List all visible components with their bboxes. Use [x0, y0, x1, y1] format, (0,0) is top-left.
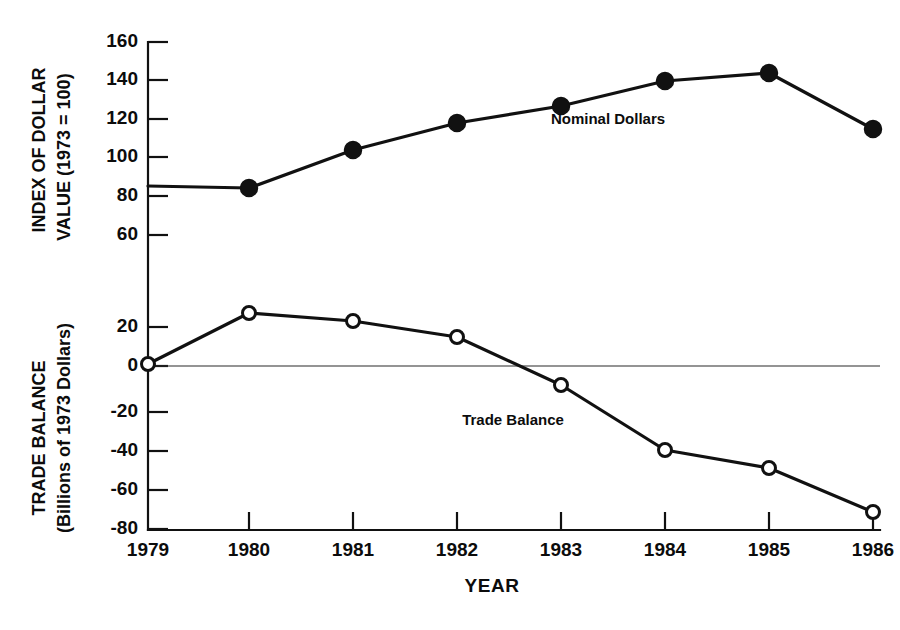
series-nominal-dollars — [148, 65, 882, 197]
top-y-axis-title-line1: INDEX OF DOLLAR — [29, 68, 49, 233]
trade-balance-point-1979 — [142, 358, 155, 371]
x-tick-label-1985: 1985 — [748, 539, 791, 560]
chart-figure: 160 140 120 100 80 60 20 0 -20 -40 -60 -… — [0, 0, 900, 630]
trade-balance-point-1981 — [347, 315, 360, 328]
nominal-dollars-point-1980 — [241, 180, 258, 197]
nominal-dollars-point-1985 — [761, 65, 778, 82]
x-tick-label-1981: 1981 — [332, 539, 375, 560]
nominal-dollars-line — [148, 73, 873, 188]
x-ticks: 1979 1980 1981 1982 1983 1984 1985 1986 — [127, 512, 894, 560]
bottom-y-tick-label-20: 20 — [117, 315, 138, 336]
x-tick-label-1979: 1979 — [127, 539, 169, 560]
trade-balance-point-1980 — [243, 307, 256, 320]
x-tick-label-1984: 1984 — [644, 539, 687, 560]
bottom-y-axis-title: TRADE BALANCE (Billions of 1973 Dollars) — [29, 323, 74, 533]
top-y-tick-label-60: 60 — [117, 223, 138, 244]
bottom-y-axis-title-line2: (Billions of 1973 Dollars) — [54, 323, 74, 533]
bottom-y-tick-label-neg20: -20 — [111, 400, 138, 421]
top-y-ticks: 160 140 120 100 80 60 — [106, 30, 168, 244]
bottom-y-axis-title-line1: TRADE BALANCE — [29, 361, 49, 516]
top-y-axis-title: INDEX OF DOLLAR VALUE (1973 = 100) — [29, 68, 74, 241]
nominal-dollars-point-1986 — [865, 121, 882, 138]
trade-balance-annotation: Trade Balance — [462, 411, 564, 428]
chart-canvas: 160 140 120 100 80 60 20 0 -20 -40 -60 -… — [0, 0, 900, 630]
nominal-dollars-point-1984 — [657, 73, 674, 90]
top-y-tick-label-160: 160 — [106, 30, 138, 51]
x-tick-label-1986: 1986 — [852, 539, 894, 560]
trade-balance-point-1983 — [555, 379, 568, 392]
top-y-tick-label-140: 140 — [106, 68, 138, 89]
bottom-y-tick-label-neg40: -40 — [111, 439, 138, 460]
x-axis-title: YEAR — [465, 575, 520, 596]
x-tick-label-1980: 1980 — [228, 539, 270, 560]
top-y-axis-title-line2: VALUE (1973 = 100) — [54, 73, 74, 240]
bottom-y-tick-label-0: 0 — [127, 354, 138, 375]
x-tick-label-1983: 1983 — [540, 539, 582, 560]
trade-balance-point-1986 — [867, 506, 880, 519]
nominal-dollars-annotation: Nominal Dollars — [551, 110, 665, 127]
nominal-dollars-point-1982 — [449, 115, 466, 132]
bottom-y-tick-label-neg80: -80 — [111, 517, 138, 538]
trade-balance-point-1984 — [659, 444, 672, 457]
top-y-tick-label-80: 80 — [117, 184, 138, 205]
bottom-y-tick-label-neg60: -60 — [111, 478, 138, 499]
bottom-y-ticks: 20 0 -20 -40 -60 -80 — [111, 315, 168, 538]
x-tick-label-1982: 1982 — [436, 539, 478, 560]
top-y-tick-label-100: 100 — [106, 145, 138, 166]
nominal-dollars-point-1981 — [345, 142, 362, 159]
trade-balance-point-1985 — [763, 462, 776, 475]
top-y-tick-label-120: 120 — [106, 107, 138, 128]
trade-balance-point-1982 — [451, 331, 464, 344]
